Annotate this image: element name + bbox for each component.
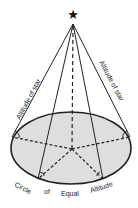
circle-label-of: of [44,188,50,195]
circle-of-equal-altitude [11,112,131,184]
circle-label-circle: Circle [14,181,33,196]
circle-of-equal-altitude-diagram: ★ Altitude of star Altitude of star Circ… [0,0,138,208]
circle-label-equal: Equal [61,190,79,198]
star-icon: ★ [67,7,79,22]
altitude-label-left: Altitude of star [15,77,43,120]
